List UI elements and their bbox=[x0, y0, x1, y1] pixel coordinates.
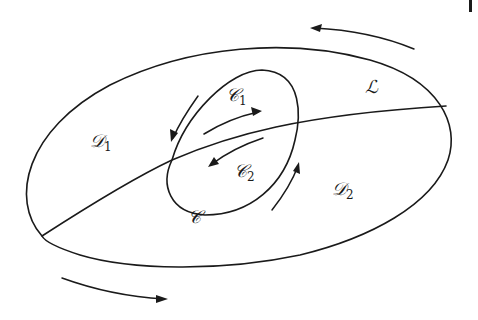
label-D1-main: 𝒟 bbox=[90, 130, 104, 151]
label-D2-sub: 2 bbox=[346, 188, 354, 202]
label-C2: 𝒞2 bbox=[234, 162, 255, 183]
arrowhead-icon bbox=[310, 24, 322, 32]
inner-c1-arrow bbox=[204, 112, 258, 134]
bottom-left-arrow bbox=[62, 278, 164, 299]
label-L-main: ℒ bbox=[365, 76, 378, 97]
inner-right-arrow bbox=[272, 166, 298, 210]
arrowhead-icon bbox=[156, 295, 168, 303]
arrowhead-icon bbox=[251, 107, 262, 116]
label-D2: 𝒟2 bbox=[332, 180, 354, 201]
label-C1-sub: 1 bbox=[239, 94, 247, 108]
label-C1-main: 𝒞 bbox=[226, 84, 239, 105]
top-right-arrow bbox=[314, 28, 414, 49]
arrowhead-icon bbox=[208, 157, 219, 167]
label-C1: 𝒞1 bbox=[226, 86, 247, 107]
label-D1: 𝒟1 bbox=[90, 132, 112, 153]
outer-ellipse bbox=[26, 48, 451, 267]
label-D2-main: 𝒟 bbox=[332, 178, 346, 199]
label-C: 𝒞 bbox=[188, 208, 201, 226]
label-D1-sub: 1 bbox=[104, 140, 112, 154]
label-L: ℒ bbox=[365, 78, 378, 96]
corner-mark bbox=[469, 0, 472, 12]
label-C2-main: 𝒞 bbox=[234, 160, 247, 181]
arrowhead-icon bbox=[293, 162, 300, 174]
label-C-main: 𝒞 bbox=[188, 206, 201, 227]
label-C2-sub: 2 bbox=[247, 170, 255, 184]
